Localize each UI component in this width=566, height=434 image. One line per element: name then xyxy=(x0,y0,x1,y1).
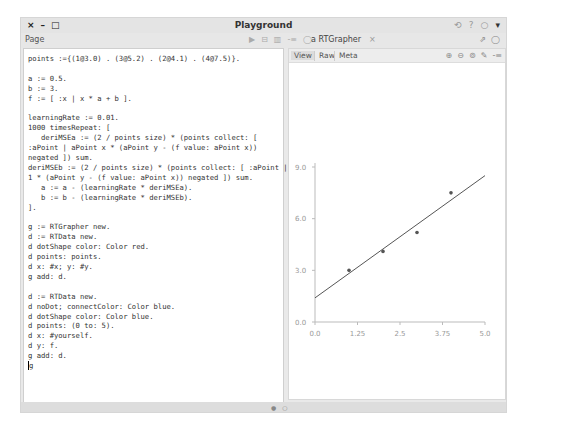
code-line: points :={(1@3.0) . (3@5.2) . (2@4.1) . … xyxy=(28,54,288,64)
y-tick-label: 9.0 xyxy=(295,164,306,172)
code-line: negated ]) sum. xyxy=(28,153,288,163)
zoom-out-icon[interactable]: ⊖ xyxy=(457,51,464,60)
data-point xyxy=(347,269,351,273)
tab-rtgrapher[interactable]: a RTGrapher × xyxy=(311,35,376,44)
y-tick-label: 3.0 xyxy=(295,267,306,275)
code-line: g xyxy=(28,361,288,371)
status-bar: ● ○ xyxy=(21,402,506,412)
menu-icon[interactable]: -≡ xyxy=(287,35,297,44)
code-line: deriMSEa := (2 / points size) * (points … xyxy=(28,133,288,143)
window-menu-icon[interactable]: ▾ xyxy=(495,20,500,30)
run-icon[interactable]: ▶ xyxy=(249,35,255,44)
data-point xyxy=(415,231,419,235)
code-line: deriMSEb := (2 / points size) * (points … xyxy=(28,163,288,173)
code-line: d := RTData new. xyxy=(28,292,288,302)
settings-icon[interactable]: ○ xyxy=(481,20,489,30)
code-line: a := a - (learningRate * deriMSEa). xyxy=(28,183,288,193)
window-title: Playground xyxy=(21,20,506,30)
edit-icon[interactable]: ✎ xyxy=(481,51,488,60)
zoom-in-icon[interactable]: ⊕ xyxy=(446,51,453,60)
data-point xyxy=(449,191,453,195)
refresh-icon[interactable]: ⟲ xyxy=(454,20,462,30)
code-line: d := RTData new. xyxy=(28,232,288,242)
code-line: d dotShape color: Color red. xyxy=(28,242,288,252)
tab-label: a RTGrapher xyxy=(311,35,361,44)
code-line: d dotShape color: Color blue. xyxy=(28,312,288,322)
code-line: g add: d. xyxy=(28,351,288,361)
code-line: b := 3. xyxy=(28,84,288,94)
open-external-icon[interactable]: ⇗ xyxy=(479,35,486,44)
toolbar: Page ▶ ⊟ ▥ -≡ ◯ a RTGrapher × ⇗ ◯ xyxy=(21,33,506,48)
code-line: d noDot; connectColor: Color blue. xyxy=(28,302,288,312)
code-line: 1 * (aPoint y - (f value: aPoint x)) neg… xyxy=(28,173,288,183)
regression-line xyxy=(315,176,485,298)
code-line: d points: points. xyxy=(28,252,288,262)
tab-meta[interactable]: Meta xyxy=(336,51,361,60)
page-dot-active[interactable]: ● xyxy=(271,404,276,411)
x-tick-label: 1.25 xyxy=(350,330,366,338)
code-line: d points: (0 to: 5). xyxy=(28,321,288,331)
code-line: g add: d. xyxy=(28,272,288,282)
code-editor[interactable]: points :={(1@3.0) . (3@5.2) . (2@4.1) . … xyxy=(23,48,284,404)
y-tick-label: 0.0 xyxy=(295,319,306,327)
inspect-icon[interactable]: ◯ xyxy=(491,35,500,44)
code-line: learningRate := 0.01. xyxy=(28,113,288,123)
zoom-reset-icon[interactable]: ⊚ xyxy=(469,51,476,60)
code-line xyxy=(28,213,288,223)
graph-menu-icon[interactable]: -≡ xyxy=(492,51,502,60)
code-line: d y: f. xyxy=(28,341,288,351)
y-tick-label: 6.0 xyxy=(295,215,306,223)
code-text[interactable]: points :={(1@3.0) . (3@5.2) . (2@4.1) . … xyxy=(28,54,288,371)
code-line xyxy=(28,104,288,114)
text-cursor xyxy=(28,361,29,370)
code-line: g := RTGrapher new. xyxy=(28,222,288,232)
page-dot[interactable]: ○ xyxy=(282,404,287,411)
code-line: d x: #yourself. xyxy=(28,331,288,341)
code-line: 1000 timesRepeat: [ xyxy=(28,123,288,133)
x-tick-label: 2.5 xyxy=(394,330,405,338)
help-icon[interactable]: ? xyxy=(469,20,474,30)
code-line: a := 0.5. xyxy=(28,74,288,84)
code-line: b := b - (learningRate * deriMSEb). xyxy=(28,193,288,203)
scatter-plot[interactable]: 0.01.252.53.755.00.03.06.09.0 xyxy=(289,63,507,399)
code-line: :aPoint | aPoint x * (aPoint y - (f valu… xyxy=(28,143,288,153)
page-label: Page xyxy=(25,35,44,44)
code-line: ]. xyxy=(28,203,288,213)
graph-panel: View Raw Meta ⊕ ⊖ ⊚ ✎ -≡ 0.01.252.53.755… xyxy=(288,48,506,400)
code-line: d x: #x; y: #y. xyxy=(28,262,288,272)
x-tick-label: 0.0 xyxy=(309,330,320,338)
graph-tabs: View Raw Meta ⊕ ⊖ ⊚ ✎ -≡ xyxy=(289,49,505,63)
playground-window: × – □ Playground ⟲ ? ○ ▾ Page ▶ ⊟ ▥ -≡ ◯… xyxy=(20,17,507,413)
x-tick-label: 5.0 xyxy=(479,330,490,338)
bindings-icon[interactable]: ⊟ xyxy=(261,35,268,44)
tab-view[interactable]: View xyxy=(291,51,315,60)
tab-close-icon[interactable]: × xyxy=(369,35,376,44)
code-line: f := [ :x | x * a + b ]. xyxy=(28,94,288,104)
pages-icon[interactable]: ▥ xyxy=(274,35,282,44)
code-line xyxy=(28,64,288,74)
code-line xyxy=(28,282,288,292)
x-tick-label: 3.75 xyxy=(435,330,451,338)
title-bar[interactable]: × – □ Playground ⟲ ? ○ ▾ xyxy=(21,18,506,33)
